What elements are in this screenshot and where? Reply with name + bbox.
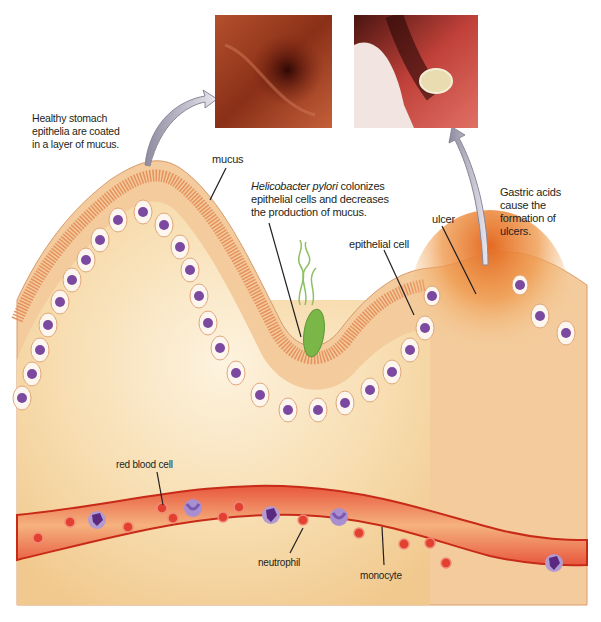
label-h-pylori-line1-rest: colonizes [338, 180, 385, 192]
label-neutrophil: neutrophil [258, 556, 300, 569]
label-healthy-epithelia: Healthy stomach epithelia are coated in … [32, 112, 120, 151]
label-h-pylori-line1: Helicobacter pylori colonizes [251, 180, 389, 193]
label-gastric-line3: formation of [500, 212, 561, 225]
healthy-stomach-photo [215, 15, 332, 128]
label-h-pylori-species: Helicobacter pylori [251, 180, 338, 192]
label-healthy-line1: Healthy stomach [32, 112, 120, 125]
label-healthy-line3: in a layer of mucus. [32, 138, 120, 151]
label-epithelial-cell: epithelial cell [349, 238, 409, 251]
label-ulcer: ulcer [432, 213, 455, 226]
label-h-pylori-line3: the production of mucus. [251, 206, 389, 219]
label-h-pylori: Helicobacter pylori colonizes epithelial… [251, 180, 389, 219]
label-gastric-line4: ulcers. [500, 225, 561, 238]
label-h-pylori-line2: epithelial cells and decreases [251, 193, 389, 206]
label-mucus: mucus [212, 153, 243, 166]
label-gastric-acids: Gastric acids cause the formation of ulc… [500, 186, 561, 238]
arrow-to-healthy-photo [145, 90, 217, 166]
label-monocyte: monocyte [360, 569, 402, 582]
label-gastric-line2: cause the [500, 199, 561, 212]
label-red-blood-cell: red blood cell [116, 458, 173, 471]
diagram-stage: Healthy stomach epithelia are coated in … [0, 0, 601, 622]
ulcer-photo [354, 15, 478, 128]
label-gastric-line1: Gastric acids [500, 186, 561, 199]
label-healthy-line2: epithelia are coated [32, 125, 120, 138]
